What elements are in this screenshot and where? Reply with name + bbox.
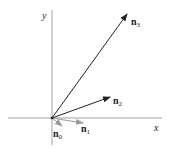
origin-point: [51, 117, 54, 120]
y-axis-label: y: [41, 10, 47, 21]
label-n3: n3: [131, 16, 141, 29]
vector-n2: [52, 97, 110, 118]
label-n1: n1: [81, 123, 91, 136]
x-axis-label: x: [153, 122, 159, 133]
vector-diagram: y x n3 n2 n1 n0: [0, 0, 171, 154]
label-n2: n2: [113, 95, 123, 108]
label-n0: n0: [53, 128, 63, 141]
